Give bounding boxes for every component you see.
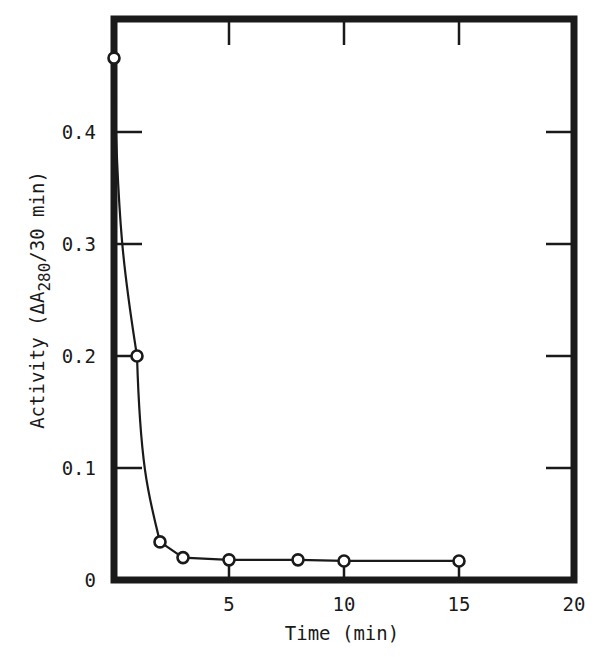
activity-curve (114, 58, 459, 561)
data-point (293, 554, 304, 565)
data-point-markers (109, 53, 465, 567)
x-tick-label: 15 (448, 593, 471, 615)
y-tick-label: 0.1 (62, 457, 96, 479)
y-axis-title-prefix: Activity (ΔA (26, 291, 48, 429)
y-tick-label: 0 (85, 569, 96, 591)
activity-time-chart: 00.10.20.30.4 5101520 Time (min) Activit… (0, 0, 596, 657)
x-tick-label: 20 (563, 593, 586, 615)
axis-ticks (114, 19, 574, 580)
plot-frame (114, 19, 574, 580)
y-tick-label: 0.3 (62, 233, 96, 255)
x-tick-label: 5 (223, 593, 234, 615)
x-axis-title: Time (min) (285, 622, 399, 644)
y-tick-label: 0.2 (62, 345, 96, 367)
data-point (178, 552, 189, 563)
data-point (339, 555, 350, 566)
data-point (454, 555, 465, 566)
y-tick-label: 0.4 (62, 121, 96, 143)
data-point (155, 536, 166, 547)
plot-border (114, 19, 574, 580)
data-point (109, 53, 120, 64)
y-axis-title-suffix: /30 min) (26, 171, 48, 263)
y-axis-title-subscript: 280 (35, 263, 54, 292)
data-point (224, 554, 235, 565)
x-tick-labels: 5101520 (223, 593, 585, 615)
x-tick-label: 10 (333, 593, 356, 615)
y-tick-labels: 00.10.20.30.4 (62, 121, 96, 591)
y-axis-title: Activity (ΔA280/30 min) (26, 171, 54, 429)
data-point (132, 351, 143, 362)
